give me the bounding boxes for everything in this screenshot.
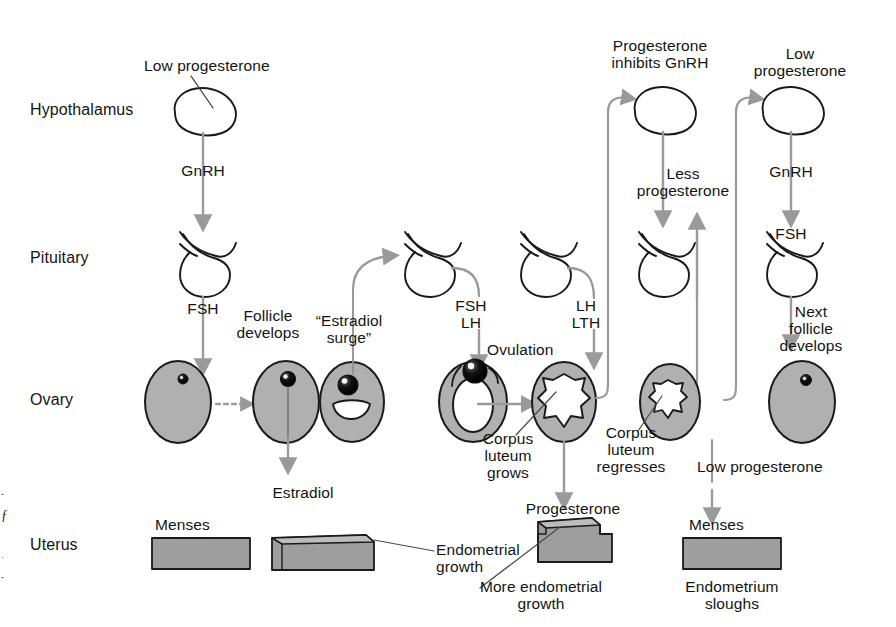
label-fsh-lh: FSH LH: [455, 297, 486, 331]
row-label-pituitary: Pituitary: [30, 249, 89, 266]
row-label-uterus: Uterus: [30, 536, 78, 553]
label-estradiol: Estradiol: [272, 484, 333, 501]
label-menses-2: Menses: [689, 516, 744, 533]
margin-mark-3: -: [1, 572, 4, 582]
label-next-follicle-develops: Next follicle develops: [780, 303, 843, 354]
label-progesterone-inhibits-gnrh: Progesterone inhibits GnRH: [612, 37, 709, 71]
label-less-progesterone: Less progesterone: [637, 165, 730, 199]
label-endometrium-sloughs: Endometrium sloughs: [685, 578, 778, 612]
figure-canvas: Hypothalamus Pituitary Ovary Uterus Low …: [0, 0, 896, 627]
margin-mark-1: ƒ: [1, 508, 8, 524]
label-follicle-develops: Follicle develops: [237, 307, 300, 341]
label-corpus-luteum-regresses: Corpus luteum regresses: [597, 424, 666, 475]
label-more-endometrial-growth: More endometrial growth: [480, 578, 602, 612]
label-low-progesterone-1: Low progesterone: [144, 57, 270, 74]
row-label-ovary: Ovary: [30, 391, 73, 408]
row-label-hypothalamus: Hypothalamus: [30, 101, 133, 118]
margin-mark-0: -: [1, 489, 4, 499]
margin-mark-2: ·: [1, 552, 4, 562]
label-estradiol-surge: “Estradiol surge”: [316, 312, 382, 346]
label-low-progesterone-3: Low progesterone: [697, 458, 823, 475]
label-endometrial-growth: Endometrial growth: [436, 541, 520, 575]
label-fsh-2: FSH: [775, 225, 806, 242]
label-menses-1: Menses: [155, 516, 210, 533]
label-ovulation: Ovulation: [487, 341, 553, 358]
label-low-progesterone-2: Low progesterone: [754, 45, 847, 79]
diagram-artwork: [0, 0, 896, 627]
label-fsh-1: FSH: [187, 300, 218, 317]
label-lh-lth: LH LTH: [572, 297, 600, 331]
label-gnrh-2: GnRH: [769, 163, 812, 180]
label-gnrh-1: GnRH: [181, 162, 224, 179]
label-progesterone: Progesterone: [526, 500, 620, 517]
label-corpus-luteum-grows: Corpus luteum grows: [483, 430, 534, 481]
